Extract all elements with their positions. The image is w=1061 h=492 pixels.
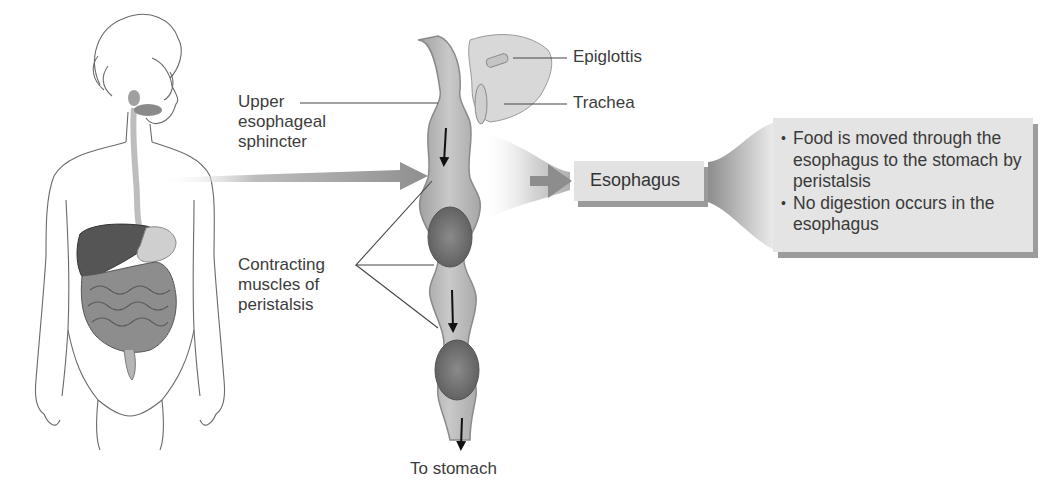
flow-arrow-2 [452, 290, 453, 328]
larynx [469, 35, 552, 124]
esophagus-label: Esophagus [590, 170, 680, 191]
info-bullet: Food is moved through the esophagus to t… [781, 128, 1025, 193]
throat-region [128, 90, 140, 106]
mouth-region [134, 104, 162, 116]
flow-arrow-3 [461, 418, 462, 446]
info-callout-box: Food is moved through the esophagus to t… [773, 118, 1033, 252]
label-contracting-muscles: Contracting muscles of peristalsis [238, 255, 325, 315]
label-to-stomach: To stomach [410, 459, 497, 479]
diagram-stage: Upper esophageal sphincter Contracting m… [0, 0, 1061, 492]
body-esophagus [133, 108, 140, 228]
info-bullet-list: Food is moved through the esophagus to t… [773, 118, 1033, 236]
esophagus-label-box: Esophagus [574, 161, 704, 201]
intestines [81, 262, 176, 380]
pointer-arrow-body [160, 162, 428, 190]
label-epiglottis: Epiglottis [573, 47, 642, 67]
callout-fan [708, 122, 775, 250]
label-upper-esophageal-sphincter: Upper esophageal sphincter [238, 92, 326, 152]
label-trachea: Trachea [573, 93, 635, 113]
esophagus-tube [418, 36, 480, 446]
info-bullet: No digestion occurs in the esophagus [781, 193, 1025, 236]
